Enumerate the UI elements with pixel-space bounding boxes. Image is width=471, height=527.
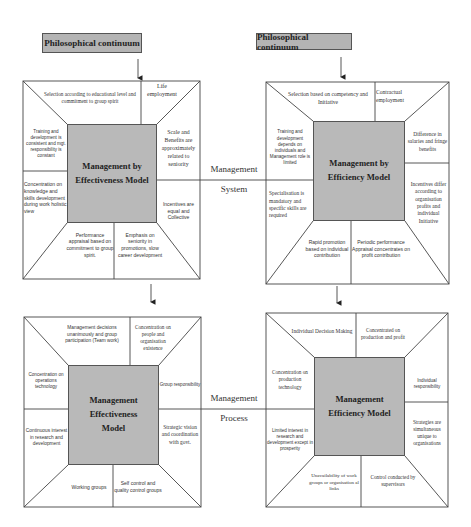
cell-specialisation: Specialisation is mandatory and specific… [269,181,313,229]
cell-limited-interest: Limited interest in research and develop… [267,410,313,470]
management-system-label-top: Management [203,164,265,174]
core-management-by-effectiveness: Management by Effectiveness Model [67,124,157,223]
cell-concentrated-production: Concentrated on production and profit [358,316,408,352]
cell-concentration-production: Concentration on production technology [267,358,313,402]
cell-incentives-differ: Incentives differ according to organisat… [409,168,448,238]
cell-unavailability-groups: Unavailability of work groups or organis… [308,462,360,504]
cell-management-decisions: Management decisions unanimously and gro… [56,320,128,350]
management-process-label-bottom: Process [203,413,265,423]
cell-strategic-vision: Strategic vision and coordination with g… [160,412,200,458]
cell-scale-benefits: Scale and Benefits are approximately rel… [157,124,200,174]
cell-periodic-appraisal: Periodic performance Appraisal concentra… [352,232,410,266]
cell-performance-appraisal: Performance appraisal based on commitmen… [66,224,114,266]
cell-concentration-people: Concentration on people and organisation… [131,320,175,356]
core-management-effectiveness: Management Effectiveness Model [68,365,159,465]
cell-strategies-simultaneous: Strategies are simultaneous unique to or… [406,413,448,453]
cell-selection: Selection according to educational level… [38,83,142,113]
cell-control-supervisors: Control conducted by supervisors [368,466,418,496]
cell-incentives: Incentives are equal and Collective [159,193,198,229]
cell-individual-decision: Individual Decision Making [290,317,354,347]
cell-continuous-interest: Continuous interest in research and deve… [25,415,68,461]
philosophical-continuum-left: Philosophical continuum [42,33,142,53]
cell-rapid-promotion: Rapid promotion based on individual cont… [302,232,352,266]
cell-emphasis-seniority: Emphasis on seniority in promotions, slo… [116,224,164,266]
core-management-by-efficiency: Management by Efficiency Model [313,121,405,221]
header-right-label: Philosophical continuum [257,32,351,52]
cell-concentration-operations: Concentration on operations technology [25,366,67,396]
cell-individual-responsibility: Individual responsibility [406,370,448,398]
cell-group-responsibility: Group responsibility [159,370,201,400]
cell-self-control: Self control and quality control groups [114,474,162,500]
cell-selection-competency: Selection based on competency and Initia… [282,84,374,114]
cell-life-employment: Life employment [142,82,182,104]
philosophical-continuum-right: Philosophical continuum [256,33,352,50]
cell-training-individuals: Training and development depends on indi… [268,118,312,178]
cell-concentration-knowledge: Concentration on knowledge and skills de… [24,172,67,224]
cell-contractual-employment: Contractual employment [376,84,421,110]
management-system-label-bottom: System [203,184,265,194]
cell-difference-salaries: Difference in salaries and fringe benefi… [406,123,449,161]
cell-training: Training and development is consistent a… [25,118,67,170]
header-left-label: Philosophical continuum [44,38,139,48]
management-process-label-top: Management [203,393,265,403]
core-management-efficiency: Management Efficiency Model [314,357,405,456]
cell-working-groups: Working groups [66,475,112,499]
